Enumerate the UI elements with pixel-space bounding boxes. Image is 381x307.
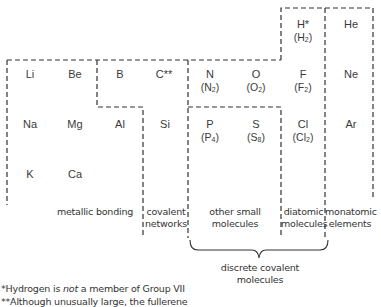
element-symbol: Ne xyxy=(344,68,358,80)
element-symbol: N xyxy=(206,68,214,80)
element-symbol: He xyxy=(344,18,358,30)
element-symbol: P xyxy=(206,118,213,130)
element-p: P(P4) xyxy=(190,118,230,146)
element-he: He xyxy=(331,18,371,31)
footnote-carbon: **Although unusually large, the fulleren… xyxy=(1,296,188,307)
element-symbol: B xyxy=(116,68,123,80)
element-f: F(F2) xyxy=(283,68,323,96)
element-mg: Mg xyxy=(55,118,95,131)
label-covalent-networks: covalent networks xyxy=(143,206,189,230)
molecular-formula: (N2) xyxy=(190,81,230,96)
molecular-formula: (S8) xyxy=(236,131,276,146)
element-cl: Cl(Cl2) xyxy=(283,118,323,146)
molecular-formula: (P4) xyxy=(190,131,230,146)
element-symbol: Be xyxy=(68,68,81,80)
element-al: Al xyxy=(100,118,140,131)
element-li: Li xyxy=(10,68,50,81)
element-symbol: Ar xyxy=(346,118,357,130)
element-k: K xyxy=(10,168,50,181)
molecular-formula: (O2) xyxy=(236,81,276,96)
label-monatomic-elements: monatomic elements xyxy=(325,206,375,230)
element-n: N(N2) xyxy=(190,68,230,96)
element-symbol: Na xyxy=(23,118,37,130)
element-h: H*(H2) xyxy=(283,18,323,46)
footnote-hydrogen: *Hydrogen is not a member of Group VII xyxy=(1,283,185,294)
element-symbol: Li xyxy=(26,68,35,80)
label-discrete-covalent-molecules: discrete covalent molecules xyxy=(200,262,320,286)
element-b: B xyxy=(100,68,140,81)
element-symbol: Ca xyxy=(68,168,82,180)
element-be: Be xyxy=(55,68,95,81)
element-si: Si xyxy=(145,118,185,131)
element-symbol: C** xyxy=(156,68,173,80)
element-symbol: O xyxy=(252,68,261,80)
element-symbol: F xyxy=(300,68,307,80)
molecular-formula: (F2) xyxy=(283,81,323,96)
molecular-formula: (H2) xyxy=(283,31,323,46)
molecular-formula: (Cl2) xyxy=(283,131,323,146)
element-c: C** xyxy=(144,68,184,81)
element-symbol: Si xyxy=(160,118,170,130)
label-diatomic-molecules: diatomic molecules xyxy=(281,206,326,230)
element-na: Na xyxy=(10,118,50,131)
element-o: O(O2) xyxy=(236,68,276,96)
element-s: S(S8) xyxy=(236,118,276,146)
discrete-molecules-brace xyxy=(190,240,328,258)
element-ar: Ar xyxy=(331,118,371,131)
element-ne: Ne xyxy=(331,68,371,81)
element-symbol: S xyxy=(252,118,259,130)
element-symbol: H* xyxy=(297,18,309,30)
element-symbol: Al xyxy=(115,118,125,130)
element-symbol: Mg xyxy=(67,118,82,130)
element-ca: Ca xyxy=(55,168,95,181)
label-other-small-molecules: other small molecules xyxy=(190,206,280,230)
element-symbol: Cl xyxy=(298,118,308,130)
element-symbol: K xyxy=(26,168,33,180)
